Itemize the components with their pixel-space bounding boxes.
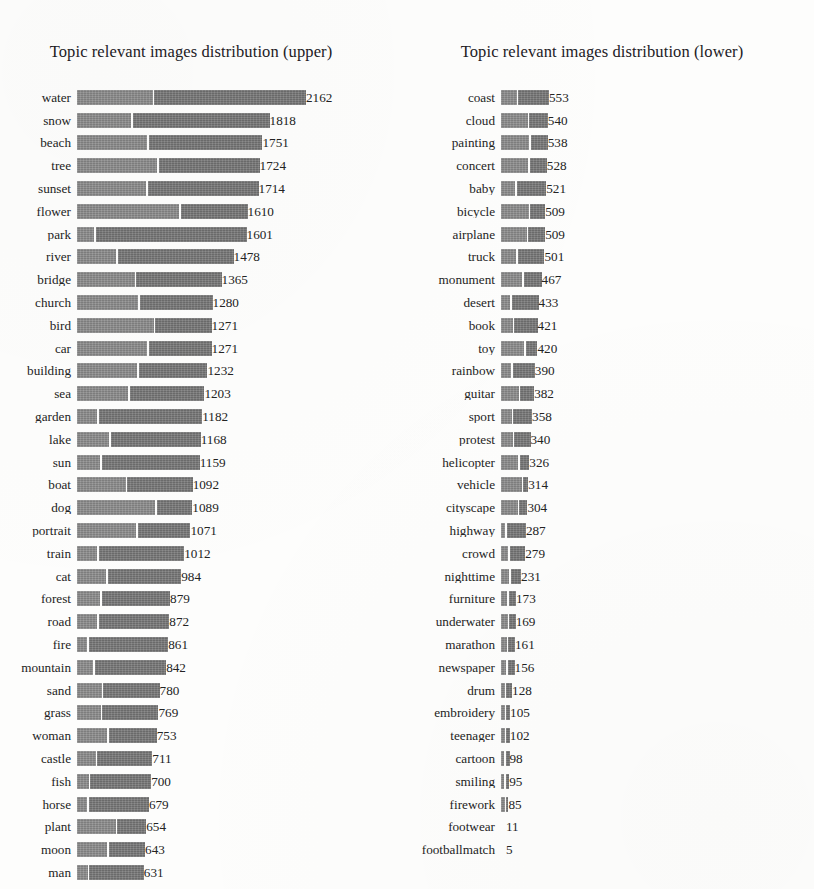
bar-segment-first <box>77 477 126 492</box>
bar-row-label: teenager <box>400 729 501 742</box>
bar-row-label: fire <box>0 638 77 651</box>
bar-segment-second <box>530 158 547 173</box>
bar-track: 382 <box>501 382 814 405</box>
bar-segment-first <box>77 272 135 287</box>
charts-container: Topic relevant images distribution (uppe… <box>0 0 814 889</box>
chart-title-lower: Topic relevant images distribution (lowe… <box>400 42 814 62</box>
bar-segment-first <box>501 705 505 720</box>
bar-row-label: airplane <box>400 228 501 241</box>
bar <box>501 204 545 219</box>
bar <box>501 705 510 720</box>
bar <box>501 637 515 652</box>
bar-segment-first <box>501 227 527 242</box>
bar-row: furniture173 <box>400 588 814 611</box>
bar-segment-first <box>77 865 88 880</box>
bar <box>77 90 306 105</box>
bar-row-label: sun <box>0 456 77 469</box>
bar-row-label: bridge <box>0 273 77 286</box>
bar-row-label: castle <box>0 752 77 765</box>
bar-row-label: guitar <box>400 387 501 400</box>
bar-row-label: marathon <box>400 638 501 651</box>
bar-row-label: drum <box>400 684 501 697</box>
bar-row-label: lake <box>0 433 77 446</box>
bar-value-label: 5 <box>506 843 513 856</box>
bar-segment-second <box>117 819 146 834</box>
bar-segment-second <box>524 272 542 287</box>
bar-row: painting538 <box>400 132 814 155</box>
bar-segment-first <box>501 523 505 538</box>
bar <box>77 272 222 287</box>
bar-track: 679 <box>77 793 400 816</box>
bar-segment-second <box>140 295 213 310</box>
bar-value-label: 1182 <box>202 410 228 423</box>
bar <box>77 135 262 150</box>
bar-track: 1203 <box>77 382 400 405</box>
bar-row-label: sand <box>0 684 77 697</box>
bar-segment-first <box>501 591 507 606</box>
bar-segment-first <box>77 705 101 720</box>
bar <box>77 363 207 378</box>
bar-track: 879 <box>77 588 400 611</box>
bar-segment-first <box>77 569 106 584</box>
bar-value-label: 553 <box>549 91 569 104</box>
bar <box>501 158 547 173</box>
bar-value-label: 85 <box>508 798 521 811</box>
bar-row-label: river <box>0 250 77 263</box>
bar-track: 1724 <box>77 154 400 177</box>
bar-track: 540 <box>501 109 814 132</box>
bar-row-label: mountain <box>0 661 77 674</box>
bar-track: 1271 <box>77 314 400 337</box>
bar-row-label: building <box>0 364 77 377</box>
bar-value-label: 390 <box>535 364 555 377</box>
bar-value-label: 984 <box>181 570 201 583</box>
bar-track: 1714 <box>77 177 400 200</box>
bar-row-label: park <box>0 228 77 241</box>
bar-row: flower1610 <box>0 200 400 223</box>
bar <box>77 409 202 424</box>
bar-row: mountain842 <box>0 656 400 679</box>
bar-segment-first <box>77 819 116 834</box>
bar <box>77 386 204 401</box>
bar <box>501 409 532 424</box>
bar-segment-first <box>501 774 504 789</box>
bar-row-label: monument <box>400 273 501 286</box>
bar <box>501 523 526 538</box>
bar-segment-second <box>513 409 532 424</box>
bar-segment-first <box>501 113 528 128</box>
bar-value-label: 780 <box>160 684 180 697</box>
bar-row: bridge1365 <box>0 268 400 291</box>
bar-segment-first <box>77 295 138 310</box>
bar-segment-second <box>108 569 181 584</box>
bar-row: smiling95 <box>400 770 814 793</box>
bar-segment-second <box>138 523 191 538</box>
bar-track: 553 <box>501 86 814 109</box>
bar-segment-first <box>501 477 522 492</box>
bar-track: 5 <box>501 838 814 861</box>
bar-track: 304 <box>501 496 814 519</box>
bar <box>501 249 544 264</box>
bar-row: plant654 <box>0 816 400 839</box>
bar-row: coast553 <box>400 86 814 109</box>
bar-value-label: 287 <box>526 524 546 537</box>
bar-value-label: 679 <box>149 798 169 811</box>
bar-segment-first <box>77 500 155 515</box>
bar-segment-first <box>501 797 505 812</box>
bar-row-label: cityscape <box>400 501 501 514</box>
bar-row-label: cartoon <box>400 752 501 765</box>
bar-track: 105 <box>501 702 814 725</box>
bar-row-label: car <box>0 342 77 355</box>
bar-row-label: smiling <box>400 775 501 788</box>
bar-value-label: 509 <box>545 228 565 241</box>
bar-track: 1232 <box>77 360 400 383</box>
bar-segment-first <box>77 728 107 743</box>
bar-segment-second <box>155 318 211 333</box>
bar-track: 1610 <box>77 200 400 223</box>
bar-rows-lower: coast553cloud540painting538concert528bab… <box>400 86 814 861</box>
bar-row: vehicle314 <box>400 474 814 497</box>
bar-row: road872 <box>0 610 400 633</box>
bar-track: 711 <box>77 747 400 770</box>
bar-track: 161 <box>501 633 814 656</box>
bar-segment-first <box>77 135 147 150</box>
bar-segment-second <box>511 569 521 584</box>
bar-segment-first <box>501 409 512 424</box>
